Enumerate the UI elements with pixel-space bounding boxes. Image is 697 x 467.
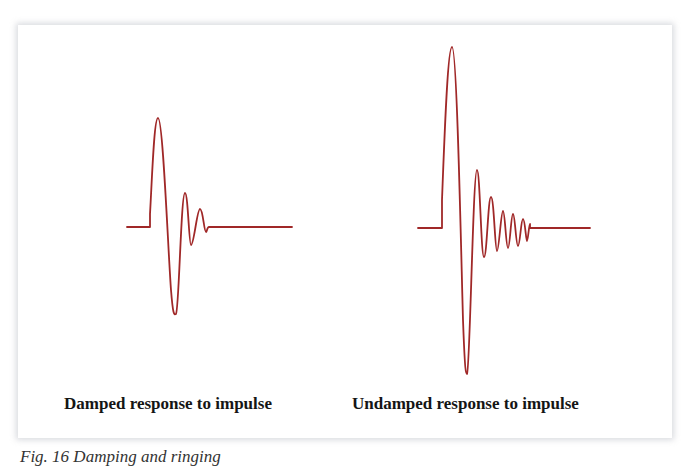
damped-label: Damped response to impulse — [64, 394, 272, 414]
damped-waveform — [127, 118, 292, 314]
figure-caption: Fig. 16 Damping and ringing — [20, 447, 221, 467]
undamped-label: Undamped response to impulse — [352, 394, 579, 414]
undamped-waveform — [418, 47, 590, 374]
